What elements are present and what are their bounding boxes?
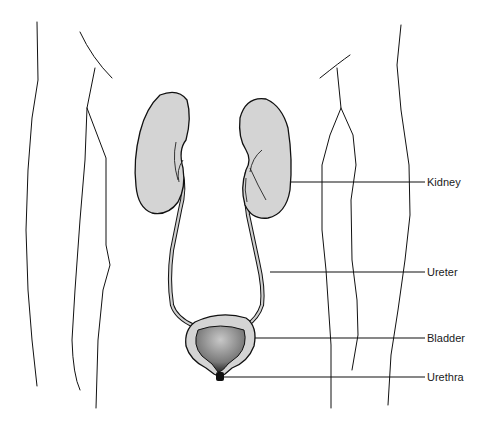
label-kidney: Kidney <box>427 176 461 188</box>
body-outline-right <box>320 25 410 408</box>
label-bladder: Bladder <box>427 332 465 344</box>
kidney-left <box>135 92 189 213</box>
urethra <box>216 372 224 381</box>
body-outline-left <box>26 22 112 408</box>
urinary-system-diagram <box>0 0 489 428</box>
label-ureter: Ureter <box>427 266 458 278</box>
kidney-right <box>240 99 292 219</box>
bladder <box>186 315 255 376</box>
label-urethra: Urethra <box>427 371 464 383</box>
